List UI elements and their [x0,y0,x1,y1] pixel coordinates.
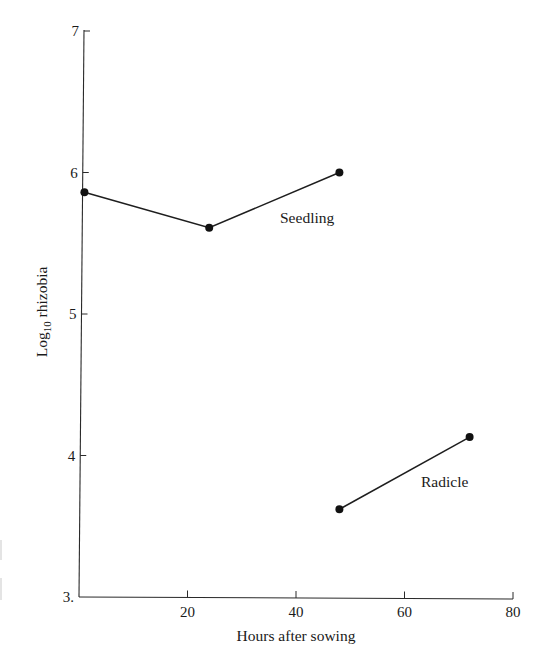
series-label-radicle: Radicle [421,473,468,490]
x-tick-label: 20 [180,604,195,620]
x-axis-title: Hours after sowing [237,627,356,644]
y-axis-ticks: 3.4567 [63,23,90,605]
y-tick-label: 3. [63,589,74,605]
data-point [80,188,88,196]
data-point [335,505,343,513]
y-tick-label: 6 [70,165,78,181]
data-point [205,224,213,232]
y-axis-title-base: Log [33,332,50,357]
y-tick-label: 7 [72,23,80,39]
line-chart: 3.4567 20406080 Seedling Radicle Hours a… [0,0,547,671]
data-point [466,433,474,441]
series-group [80,169,473,514]
x-tick-label: 80 [506,604,521,620]
series-label-seedling: Seedling [280,209,334,226]
y-axis-title-subscript: 10 [41,321,53,333]
y-tick-label: 4 [68,448,76,464]
y-axis-title: Log10 rhizobia [33,267,53,358]
x-axis-ticks: 20406080 [180,591,521,621]
y-tick-label: 5 [69,306,77,322]
x-tick-label: 60 [397,604,412,620]
data-point [335,169,343,177]
axes [79,30,513,599]
y-axis-title-rest: rhizobia [33,267,50,322]
x-tick-label: 40 [289,604,304,620]
